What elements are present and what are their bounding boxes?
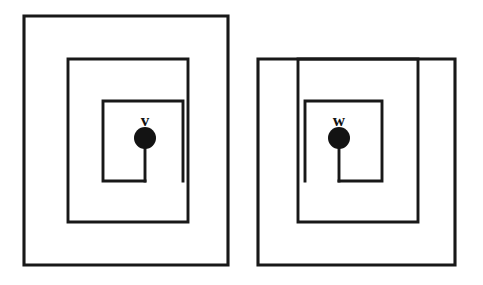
left-outer-rectangle xyxy=(24,16,228,265)
right-group: w xyxy=(258,59,455,265)
vertex-dot-w xyxy=(328,127,350,149)
nested-rectangle-diagram: v w xyxy=(0,0,483,285)
vertex-label-w: w xyxy=(333,111,346,130)
left-group: v xyxy=(24,16,228,265)
left-middle-rectangle xyxy=(68,59,188,222)
right-outer-rectangle xyxy=(258,59,455,265)
vertex-label-v: v xyxy=(141,111,150,130)
vertex-dot-v xyxy=(134,127,156,149)
figure-container: v w xyxy=(0,0,483,285)
right-middle-rectangle xyxy=(298,59,418,222)
